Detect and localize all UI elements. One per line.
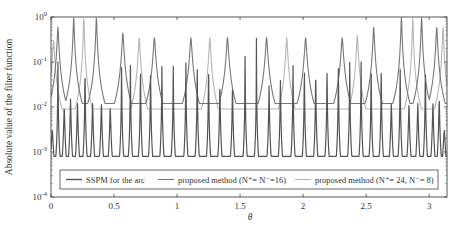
x-tick-label: 0.5 bbox=[108, 201, 120, 211]
legend-label-proposed-16: proposed method (N⁺= N⁻=16) bbox=[178, 175, 286, 185]
x-axis-label: θ bbox=[248, 212, 253, 222]
y-axis-label: Absolute value of the filter function bbox=[4, 39, 14, 176]
legend-label-proposed-24-8: proposed method (N⁺= 24, N⁻= 8) bbox=[315, 175, 434, 185]
filter-function-chart: 00.511.522.5310010-110-210-310-4 Absolut… bbox=[0, 0, 465, 233]
x-tick-label: 1 bbox=[175, 201, 180, 211]
x-tick-label: 1.5 bbox=[234, 201, 246, 211]
x-tick-label: 0 bbox=[49, 201, 54, 211]
x-tick-label: 2 bbox=[301, 201, 306, 211]
x-tick-label: 3 bbox=[427, 201, 432, 211]
x-tick-label: 2.5 bbox=[361, 201, 373, 211]
legend-label-sspm: SSPM for the arc bbox=[86, 175, 145, 185]
legend: SSPM for the arc proposed method (N⁺= N⁻… bbox=[60, 170, 438, 189]
